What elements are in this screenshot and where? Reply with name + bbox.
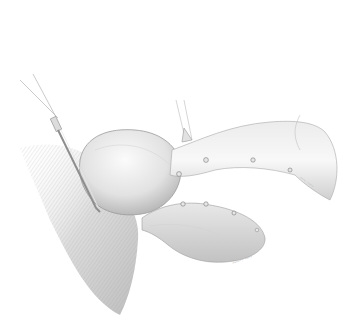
illustration-canvas: ~~ ~~ ~~~ ~~	[0, 0, 350, 320]
uterus	[80, 130, 181, 215]
anatomical-illustration	[0, 0, 350, 320]
